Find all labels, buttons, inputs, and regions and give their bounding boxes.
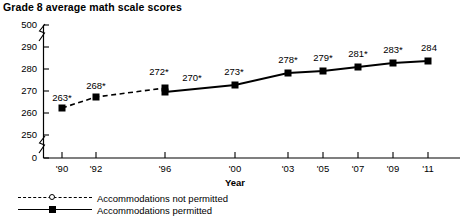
legend-label-permitted: Accommodations permitted [97, 205, 212, 216]
legend-label-not-permitted: Accommodations not permitted [97, 193, 228, 204]
ytick-label-260: 260 [3, 107, 37, 118]
xtick-label-96: '96 [145, 163, 185, 174]
data-label-2000: 273* [217, 66, 251, 77]
ytick-label-250: 250 [3, 129, 37, 140]
ytick-label-500: 500 [3, 19, 37, 30]
data-label-2009: 283* [376, 44, 410, 55]
x-axis-title: Year [195, 177, 275, 188]
legend-key-dashed-open-circle [18, 192, 92, 204]
data-label-2005: 279* [306, 52, 340, 63]
ytick-label-290: 290 [3, 41, 37, 52]
xtick-label-05: '05 [303, 163, 343, 174]
legend-item-permitted[interactable]: Accommodations permitted [18, 204, 228, 216]
chart-legend: Accommodations not permitted Accommodati… [18, 192, 228, 216]
legend-item-not-permitted[interactable]: Accommodations not permitted [18, 192, 228, 204]
x-axis-ticks [62, 152, 428, 158]
data-label-1990: 263* [45, 92, 79, 103]
ytick-label-270: 270 [3, 85, 37, 96]
data-label-2003: 278* [271, 54, 305, 65]
data-label-1996-permitted: 270* [175, 72, 209, 83]
xtick-label-07: '07 [338, 163, 378, 174]
xtick-label-09: '09 [373, 163, 413, 174]
data-label-2007: 281* [341, 48, 375, 59]
xtick-label-92: '92 [76, 163, 116, 174]
legend-key-solid-filled-square [18, 204, 92, 216]
ytick-label-0: 0 [3, 152, 37, 163]
data-label-1992: 268* [79, 80, 113, 91]
chart-container: Grade 8 average math scale scores [0, 0, 465, 218]
filled-square-icon [49, 206, 56, 213]
data-label-1996-not-permitted: 272* [142, 66, 176, 77]
xtick-label-11: '11 [408, 163, 448, 174]
open-circle-icon [49, 194, 55, 200]
data-label-2011: 284 [412, 42, 446, 53]
xtick-label-00: '00 [215, 163, 255, 174]
xtick-label-03: '03 [268, 163, 308, 174]
ytick-label-280: 280 [3, 63, 37, 74]
